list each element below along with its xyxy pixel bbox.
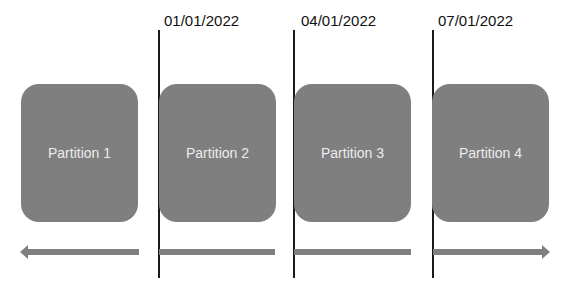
boundary-date-label: 01/01/2022: [164, 12, 239, 29]
boundary-date-label: 07/01/2022: [438, 12, 513, 29]
partition-label: Partition 1: [48, 145, 111, 161]
partition-label: Partition 2: [186, 145, 249, 161]
partition-label: Partition 3: [321, 145, 384, 161]
partition-box-3: Partition 3: [294, 84, 411, 222]
left-arrow-icon: [20, 244, 140, 260]
partition-box-1: Partition 1: [21, 84, 138, 222]
range-bar-2: [159, 249, 275, 255]
boundary-date-label: 04/01/2022: [301, 12, 376, 29]
range-bar-3: [294, 249, 411, 255]
right-arrow-icon: [433, 244, 551, 260]
partition-box-4: Partition 4: [432, 84, 549, 222]
partition-label: Partition 4: [459, 145, 522, 161]
partition-box-2: Partition 2: [159, 84, 276, 222]
